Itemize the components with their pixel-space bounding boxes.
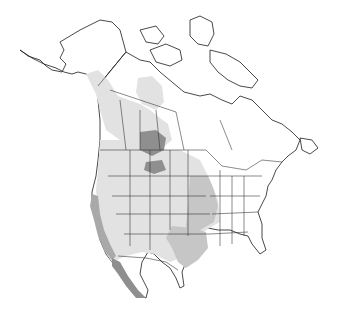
newfoundland: [300, 138, 318, 154]
baffin-island: [210, 50, 258, 88]
ellesmere-island: [190, 16, 214, 46]
north-america-map: [0, 0, 349, 316]
victoria-island: [150, 44, 182, 66]
range-map: [0, 0, 349, 316]
banks-island: [140, 26, 164, 44]
